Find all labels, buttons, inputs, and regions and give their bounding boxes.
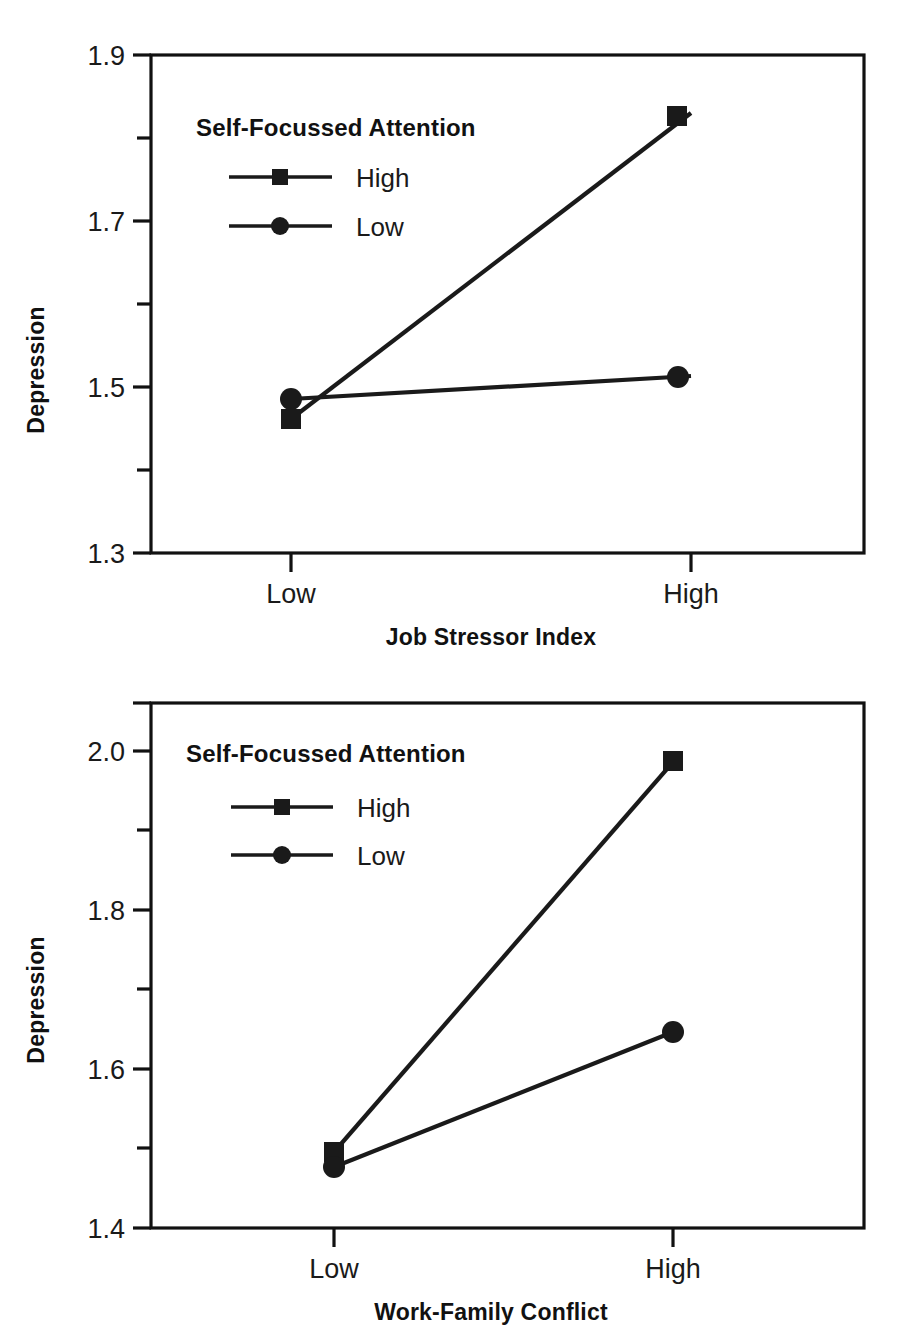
legend-label-high: High — [356, 163, 409, 193]
x-tick-label-high: High — [663, 579, 719, 609]
y-axis-title: Depression — [23, 306, 49, 433]
x-axis-title: Job Stressor Index — [386, 624, 597, 650]
series-low-line — [334, 1032, 673, 1167]
y-tick-label-3: 1.5 — [87, 373, 125, 403]
data-point-low-low[interactable] — [280, 388, 302, 410]
y-tick-label-4: 1.4 — [87, 1214, 125, 1244]
data-point-low-high[interactable] — [662, 1021, 684, 1043]
legend-marker-square — [272, 169, 288, 185]
series-high-line — [291, 113, 691, 419]
plot-frame — [151, 703, 864, 1228]
data-point-low-high[interactable] — [667, 366, 689, 388]
legend-marker-circle — [271, 217, 289, 235]
series-low[interactable] — [280, 366, 691, 410]
legend-entry-high[interactable]: High — [231, 793, 410, 823]
legend-label-low: Low — [357, 841, 405, 871]
legend: Self-Focussed Attention High Low — [196, 114, 476, 242]
x-tick-label-high: High — [645, 1254, 701, 1284]
x-axis-title: Work-Family Conflict — [374, 1299, 608, 1325]
y-axis-minor-ticks — [137, 138, 151, 470]
chart-work-family-conflict: 2.0 1.8 1.6 1.4 Depression Low High Work… — [0, 650, 906, 1344]
data-point-high-low[interactable] — [281, 409, 301, 429]
legend-entry-low[interactable]: Low — [229, 212, 404, 242]
y-tick-label-2: 1.7 — [87, 207, 125, 237]
legend-marker-circle — [273, 846, 291, 864]
x-tick-label-low: Low — [266, 579, 316, 609]
legend-entry-high[interactable]: High — [229, 163, 409, 193]
chart-job-stressor: 1.9 1.7 1.5 1.3 Depression Low High Job … — [0, 0, 906, 672]
y-tick-label-1: 1.9 — [87, 41, 125, 71]
legend-marker-square — [274, 799, 290, 815]
y-tick-label-1: 2.0 — [87, 737, 125, 767]
legend-title: Self-Focussed Attention — [196, 114, 476, 141]
series-low-line — [291, 376, 691, 399]
legend-entry-low[interactable]: Low — [231, 841, 405, 871]
x-axis-ticks — [291, 553, 691, 572]
data-point-low-low[interactable] — [323, 1156, 345, 1178]
y-axis-minor-ticks — [137, 830, 151, 1148]
y-tick-label-4: 1.3 — [87, 539, 125, 569]
data-point-high-high[interactable] — [667, 106, 687, 126]
legend-title: Self-Focussed Attention — [186, 740, 466, 767]
x-axis-ticks — [334, 1228, 673, 1247]
legend-label-high: High — [357, 793, 410, 823]
legend: Self-Focussed Attention High Low — [186, 740, 466, 871]
data-point-high-high[interactable] — [663, 751, 683, 771]
y-tick-label-3: 1.6 — [87, 1055, 125, 1085]
y-tick-label-2: 1.8 — [87, 896, 125, 926]
y-axis-title: Depression — [23, 936, 49, 1063]
figure-page: 1.9 1.7 1.5 1.3 Depression Low High Job … — [0, 0, 906, 1344]
x-tick-label-low: Low — [309, 1254, 359, 1284]
legend-label-low: Low — [356, 212, 404, 242]
